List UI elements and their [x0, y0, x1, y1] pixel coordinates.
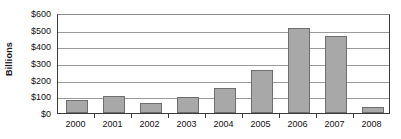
x-axis-ticks	[57, 114, 390, 118]
bar	[288, 28, 310, 113]
x-axis-tick	[353, 114, 354, 118]
x-axis-tick-label: 2007	[324, 119, 344, 129]
x-axis-tick-label: 2002	[139, 119, 159, 129]
x-axis-tick-labels: 200020012002200320042005200620072008	[57, 119, 390, 135]
y-axis-tick-label: $200	[31, 76, 51, 86]
bar	[103, 96, 125, 113]
bar	[251, 70, 273, 113]
bar-slot	[354, 15, 391, 113]
y-axis-tick-labels: $0$100$200$300$400$500$600	[18, 14, 54, 114]
x-axis-tick-label: 2008	[361, 119, 381, 129]
y-axis-title: Billions	[0, 0, 18, 118]
x-axis-tick-label: 2001	[102, 119, 122, 129]
x-axis-tick-label: 2006	[287, 119, 307, 129]
bar	[362, 107, 384, 113]
x-axis-tick	[131, 114, 132, 118]
x-axis-tick	[316, 114, 317, 118]
x-axis-tick	[279, 114, 280, 118]
bar	[325, 36, 347, 114]
y-axis-tick-label: $0	[41, 109, 51, 119]
bar-series	[58, 15, 389, 113]
bar	[66, 100, 88, 113]
y-axis-title-label: Billions	[4, 42, 14, 76]
x-axis-tick-label: 2005	[250, 119, 270, 129]
bar	[140, 103, 162, 113]
bar-slot	[95, 15, 132, 113]
y-axis-tick-label: $100	[31, 92, 51, 102]
y-axis-tick-label: $300	[31, 59, 51, 69]
x-axis-tick	[205, 114, 206, 118]
y-axis-tick-label: $500	[31, 26, 51, 36]
y-axis-tick-label: $600	[31, 9, 51, 19]
x-axis-tick-label: 2004	[213, 119, 233, 129]
x-axis-tick	[242, 114, 243, 118]
bar	[214, 88, 236, 113]
x-axis-tick-label: 2000	[65, 119, 85, 129]
bar-slot	[317, 15, 354, 113]
bar-slot	[169, 15, 206, 113]
bar-chart: Billions $0$100$200$300$400$500$600 2000…	[0, 0, 401, 139]
x-axis-tick	[94, 114, 95, 118]
x-axis-tick-label: 2003	[176, 119, 196, 129]
y-axis-tick-label: $400	[31, 42, 51, 52]
bar-slot	[243, 15, 280, 113]
bar-slot	[132, 15, 169, 113]
bar-slot	[280, 15, 317, 113]
x-axis-tick	[168, 114, 169, 118]
bar-slot	[58, 15, 95, 113]
bar	[177, 97, 199, 113]
bar-slot	[206, 15, 243, 113]
plot-area	[57, 14, 390, 114]
